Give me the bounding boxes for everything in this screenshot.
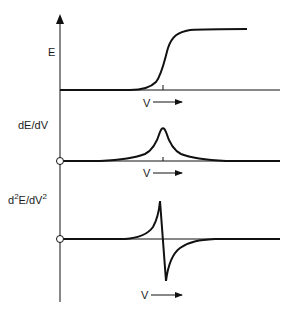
xlabel-v: V (141, 289, 149, 301)
ylabel-e: E (48, 46, 55, 58)
dispersive-curve (60, 201, 280, 281)
panel-second-derivative: d2E/dV2 V (8, 192, 280, 301)
step-curve (60, 29, 247, 90)
origin-marker (57, 158, 64, 165)
xlabel-v: V (143, 97, 151, 109)
ylabel-de-dv: dE/dV (18, 119, 49, 131)
xlabel-v: V (143, 167, 151, 179)
panel-first-derivative: dE/dV V (18, 119, 280, 179)
origin-marker (57, 236, 64, 243)
peak-curve (60, 128, 280, 161)
panel-energy: E V (48, 29, 280, 109)
spectra-diagram: E V dE/dV V d2E/dV2 V (0, 0, 292, 315)
ylabel-d2e-dv2: d2E/dV2 (8, 192, 47, 206)
axis-arrow-icon (56, 14, 64, 24)
